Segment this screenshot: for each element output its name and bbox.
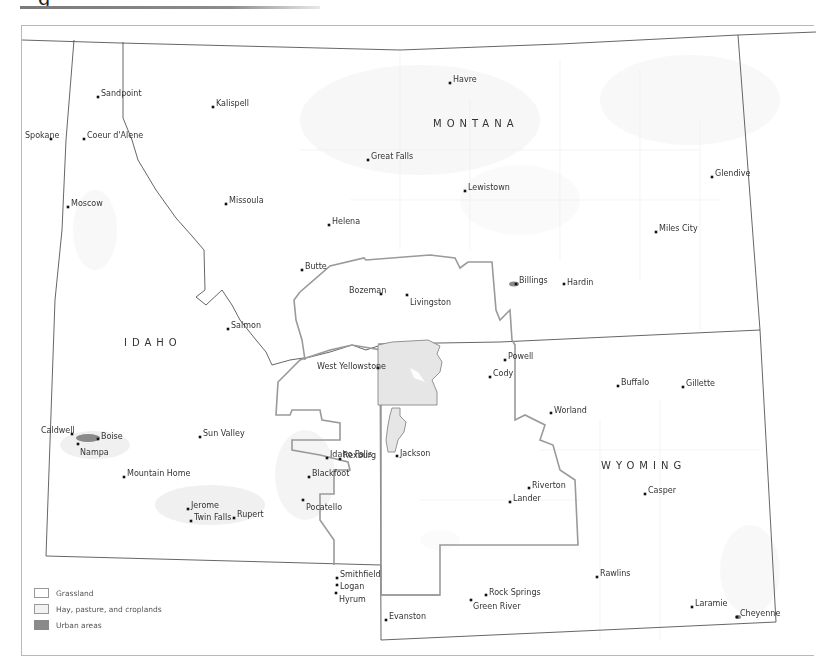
city-marker: Riverton <box>528 481 566 490</box>
city-dot-icon <box>225 203 228 206</box>
city-marker: Smithfield <box>336 570 381 579</box>
city-label: Sun Valley <box>203 429 245 438</box>
city-label: Butte <box>305 262 327 271</box>
city-marker: Caldwell <box>41 426 75 435</box>
city-marker: Green River <box>470 599 522 611</box>
city-label: Nampa <box>80 448 109 457</box>
yellowstone-park <box>378 340 442 405</box>
city-dot-icon <box>464 190 467 193</box>
city-label: Coeur d'Alene <box>87 131 143 140</box>
grassland-swatch <box>34 588 49 598</box>
city-dot-icon <box>67 206 70 209</box>
city-label: Helena <box>332 217 360 226</box>
city-dot-icon <box>528 487 531 490</box>
city-dot-icon <box>644 493 647 496</box>
city-marker: Bozeman <box>349 286 386 295</box>
city-marker: Glendive <box>711 169 751 178</box>
legend-label: Grassland <box>56 589 94 598</box>
city-label: Blackfoot <box>312 469 349 478</box>
city-marker: Lander <box>509 494 542 503</box>
city-marker: Lewistown <box>464 183 510 192</box>
city-label: West Yellowstone <box>317 362 386 371</box>
city-dot-icon <box>77 443 80 446</box>
city-dot-icon <box>187 508 190 511</box>
city-dot-icon <box>233 517 236 520</box>
city-dot-icon <box>489 376 492 379</box>
city-label: Powell <box>508 352 533 361</box>
city-marker: Jerome <box>187 501 219 510</box>
city-dot-icon <box>563 283 566 286</box>
city-label: Hyrum <box>339 595 366 604</box>
city-dot-icon <box>336 577 339 580</box>
city-label: Jerome <box>190 501 219 510</box>
city-label: Green River <box>473 602 521 611</box>
city-label: Mountain Home <box>127 469 191 478</box>
urban-swatch <box>34 620 49 630</box>
city-label: Idaho Falls <box>330 450 372 459</box>
city-label: Lander <box>513 494 541 503</box>
city-marker: Hyrum <box>335 592 366 604</box>
city-marker: Twin Falls <box>190 513 232 522</box>
city-marker: Billings <box>515 276 548 285</box>
city-dot-icon <box>515 283 518 286</box>
city-label: Caldwell <box>41 426 75 435</box>
city-marker: Sandpoint <box>97 89 142 98</box>
city-dot-icon <box>326 457 329 460</box>
city-marker: Buffalo <box>617 378 649 387</box>
city-marker: Jackson <box>396 449 431 458</box>
city-label: Laramie <box>695 599 728 608</box>
city-dot-icon <box>367 159 370 162</box>
city-label: Casper <box>648 486 677 495</box>
city-marker: Cody <box>489 369 514 378</box>
city-dot-icon <box>227 328 230 331</box>
city-label: Missoula <box>229 196 264 205</box>
city-marker: Sun Valley <box>199 429 245 438</box>
legend-label: Hay, pasture, and croplands <box>56 605 162 614</box>
city-marker: Boise <box>97 432 123 441</box>
city-dot-icon <box>504 359 507 362</box>
city-label: Boise <box>101 432 123 441</box>
city-marker: Casper <box>644 486 677 495</box>
city-label: Buffalo <box>621 378 649 387</box>
city-marker: Missoula <box>225 196 264 205</box>
cropland-shading <box>60 55 780 615</box>
state-label: MONTANA <box>433 118 518 129</box>
city-label: Kalispell <box>216 99 249 108</box>
city-marker: Logan <box>336 582 365 591</box>
city-label: Great Falls <box>371 152 413 161</box>
city-marker: Havre <box>449 75 477 84</box>
city-label: Moscow <box>71 199 103 208</box>
city-label: Billings <box>519 276 548 285</box>
state-label: WYOMING <box>601 460 686 471</box>
city-label: Rock Springs <box>489 588 541 597</box>
city-label: Worland <box>554 406 587 415</box>
city-marker: Rawlins <box>596 569 631 578</box>
city-dot-icon <box>328 224 331 227</box>
city-dot-icon <box>617 385 620 388</box>
city-label: Gillette <box>686 379 715 388</box>
city-label: Cheyenne <box>740 609 780 618</box>
city-dot-icon <box>385 619 388 622</box>
city-label: Cody <box>493 369 514 378</box>
city-label: Riverton <box>532 481 566 490</box>
city-label: Jackson <box>399 449 430 458</box>
city-dot-icon <box>301 269 304 272</box>
croplands-swatch <box>34 604 49 614</box>
city-marker: Cheyenne <box>736 609 781 618</box>
city-marker: Salmon <box>227 321 261 330</box>
city-label: Smithfield <box>340 570 381 579</box>
legend-item-urban: Urban areas <box>34 617 162 633</box>
city-marker: Hardin <box>563 278 594 287</box>
city-marker: Laramie <box>691 599 728 608</box>
city-label: Glendive <box>715 169 750 178</box>
city-marker: Mountain Home <box>123 469 191 478</box>
city-label: Lewistown <box>468 183 510 192</box>
city-dot-icon <box>97 96 100 99</box>
city-marker: Butte <box>301 262 327 271</box>
city-dot-icon <box>302 499 305 502</box>
city-dot-icon <box>406 294 409 297</box>
city-marker: Great Falls <box>367 152 414 161</box>
city-dot-icon <box>97 438 100 441</box>
city-label: Rawlins <box>600 569 631 578</box>
city-dot-icon <box>199 436 202 439</box>
